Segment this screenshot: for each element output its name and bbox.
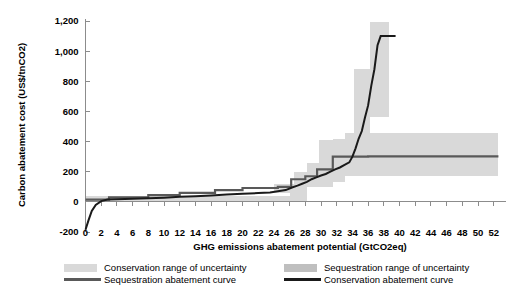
x-tick-label: 34 xyxy=(347,227,358,238)
y-tick-label: 800 xyxy=(63,76,79,87)
x-tick-label: 36 xyxy=(363,227,374,238)
x-tick-label: 42 xyxy=(410,227,421,238)
x-tick-label: 24 xyxy=(269,227,280,238)
x-tick-label: 14 xyxy=(190,227,201,238)
x-tick-label: 10 xyxy=(159,227,170,238)
x-tick-label: 44 xyxy=(426,227,437,238)
x-tick-label: 40 xyxy=(394,227,405,238)
x-tick-label: 16 xyxy=(206,227,217,238)
legend-label-conservation-band: Conservation range of uncertainty xyxy=(104,262,247,273)
y-tick-label: 400 xyxy=(63,136,79,147)
x-tick-label: 38 xyxy=(379,227,390,238)
x-tick-label: 22 xyxy=(253,227,264,238)
x-tick-label: 46 xyxy=(441,227,452,238)
chart-canvas: Carbon abatement cost (US$/tnCO2) -20002… xyxy=(0,0,518,303)
x-tick-label: 26 xyxy=(284,227,295,238)
x-axis-title: GHG emissions abatement potential (GtCO2… xyxy=(193,241,406,252)
y-tick-label: 0 xyxy=(73,196,78,207)
x-tick-label: 4 xyxy=(114,227,120,238)
x-tick-label: 8 xyxy=(146,227,151,238)
x-tick-label: 12 xyxy=(174,227,185,238)
x-tick-label: 18 xyxy=(222,227,233,238)
x-tick-label: 6 xyxy=(130,227,135,238)
x-tick-label: 50 xyxy=(473,227,484,238)
x-tick-label: 20 xyxy=(237,227,248,238)
x-tick-label: 2 xyxy=(99,227,104,238)
x-tick-label: 30 xyxy=(316,227,327,238)
x-tick-label: 32 xyxy=(331,227,342,238)
legend-label-conservation-line: Conservation abatement curve xyxy=(324,274,453,285)
legend-label-sequestration-band: Sequestration range of uncertainty xyxy=(324,262,469,273)
y-tick-label: 200 xyxy=(63,166,79,177)
legend-swatch-conservation-band xyxy=(64,264,97,272)
x-tick-label: 48 xyxy=(457,227,468,238)
x-tick-label: 28 xyxy=(300,227,311,238)
abatement-cost-chart: Carbon abatement cost (US$/tnCO2) -20002… xyxy=(0,0,518,303)
y-tick-label: -200 xyxy=(59,226,78,237)
y-tick-label: 1,200 xyxy=(55,15,79,26)
y-axis-title: Carbon abatement cost (US$/tnCO2) xyxy=(16,43,27,207)
x-tick-label: 52 xyxy=(488,227,499,238)
legend-swatch-sequestration-band xyxy=(284,264,317,272)
y-tick-label: 600 xyxy=(63,106,79,117)
legend-label-sequestration-line: Sequestration abatement curve xyxy=(104,274,236,285)
y-tick-label: 1,000 xyxy=(55,46,79,57)
